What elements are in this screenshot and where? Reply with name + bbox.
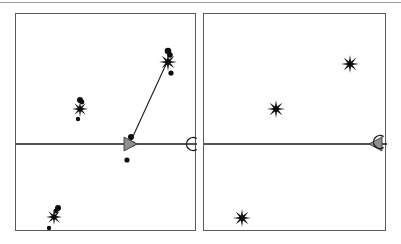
star-marker	[341, 55, 359, 73]
data-point-dot	[168, 70, 173, 75]
star-marker	[159, 53, 177, 71]
star-marker	[267, 100, 285, 118]
star-marker	[233, 209, 251, 227]
right-panel-plot	[204, 14, 387, 232]
data-point-dot	[47, 226, 51, 230]
star-marker	[46, 209, 62, 225]
star-marker	[72, 101, 88, 117]
left-panel-plot	[16, 14, 197, 232]
left-panel	[15, 13, 196, 231]
figure-canvas	[0, 0, 401, 244]
data-point-dot	[128, 134, 134, 140]
trajectory-line	[129, 60, 168, 145]
data-point-dot	[124, 157, 129, 162]
data-point-dot	[76, 117, 80, 121]
right-panel	[203, 13, 386, 231]
top-rule-divider	[0, 2, 401, 3]
